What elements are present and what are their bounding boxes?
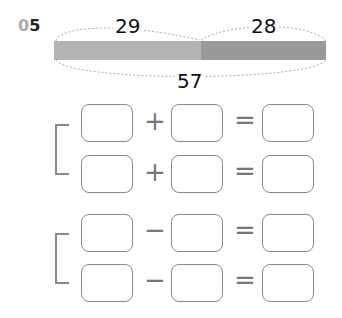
sub-row2-box1[interactable] [81, 264, 133, 302]
addition-bracket [55, 124, 69, 175]
left-value-label: 29 [113, 16, 142, 36]
sub-row1-box1[interactable] [81, 214, 133, 252]
total-value-label: 57 [175, 71, 204, 91]
plus-sign: + [143, 108, 167, 134]
equals-sign: = [233, 217, 257, 243]
sub-row1-box2[interactable] [171, 214, 223, 252]
sub-row1-result-box[interactable] [262, 214, 314, 252]
equals-sign: = [233, 158, 257, 184]
add-row2-result-box[interactable] [262, 155, 314, 193]
add-row1-box1[interactable] [81, 104, 133, 142]
subtraction-bracket [55, 233, 69, 284]
add-row2-box1[interactable] [81, 155, 133, 193]
add-row1-box2[interactable] [171, 104, 223, 142]
minus-sign: − [143, 217, 167, 243]
sub-row2-result-box[interactable] [262, 264, 314, 302]
add-row1-result-box[interactable] [262, 104, 314, 142]
right-value-label: 28 [249, 16, 278, 36]
equals-sign: = [233, 267, 257, 293]
bar-segment-right [201, 41, 326, 60]
equals-sign: = [233, 107, 257, 133]
sub-row2-box2[interactable] [171, 264, 223, 302]
bar-segment-left [54, 41, 201, 60]
add-row2-box2[interactable] [171, 155, 223, 193]
plus-sign: + [143, 159, 167, 185]
minus-sign: − [143, 267, 167, 293]
